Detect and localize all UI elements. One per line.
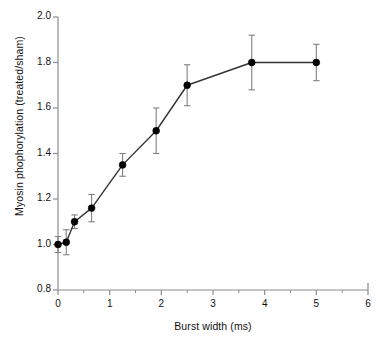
y-tick-label: 2.0: [9, 10, 51, 21]
data-point-marker: [313, 59, 320, 66]
error-bars: [55, 35, 320, 255]
x-tick-label: 0: [38, 298, 78, 309]
x-tick-label: 6: [348, 298, 380, 309]
tick-marks: [53, 17, 368, 295]
y-tick-label: 1.6: [9, 101, 51, 112]
data-point-marker: [55, 241, 62, 248]
axes-group: [58, 17, 368, 290]
y-tick-label: 1.0: [9, 238, 51, 249]
y-tick-label: 1.8: [9, 56, 51, 67]
x-tick-label: 1: [90, 298, 130, 309]
data-point-marker: [63, 239, 70, 246]
x-axis-title: Burst width (ms): [58, 318, 368, 334]
x-axis-title-text: Burst width (ms): [174, 320, 251, 332]
x-tick-label: 5: [296, 298, 336, 309]
y-tick-label: 0.8: [9, 283, 51, 294]
data-markers: [55, 59, 320, 248]
y-tick-label: 1.2: [9, 192, 51, 203]
x-tick-label: 4: [245, 298, 285, 309]
data-point-marker: [119, 161, 126, 168]
chart-figure: 0.81.01.21.41.61.82.0 0123456 Myosin pho…: [0, 0, 380, 342]
x-tick-label: 3: [193, 298, 233, 309]
chart-plot-svg: [0, 0, 380, 342]
data-point-marker: [153, 127, 160, 134]
x-tick-label: 2: [141, 298, 181, 309]
data-point-marker: [248, 59, 255, 66]
data-point-marker: [184, 82, 191, 89]
data-point-marker: [88, 205, 95, 212]
data-point-marker: [71, 218, 78, 225]
y-tick-label: 1.4: [9, 147, 51, 158]
